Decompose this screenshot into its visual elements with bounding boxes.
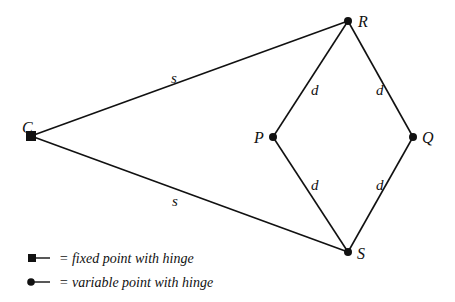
legend-variable-dot-icon [27, 278, 35, 286]
link-r-p [273, 21, 348, 137]
legend-fixed-square-icon [28, 254, 36, 262]
label-p: P [253, 129, 264, 146]
point-p [269, 133, 277, 141]
link-p-s [273, 137, 348, 252]
legend-variable-text: = variable point with hinge [59, 275, 213, 290]
peaucellier-linkage-diagram: C R P Q S s s d d d d = fixed point with… [0, 0, 455, 302]
link-label-d-ps: d [311, 177, 319, 193]
link-q-s [348, 137, 413, 252]
point-r [344, 17, 352, 25]
link-r-q [348, 21, 413, 137]
link-label-d-rq: d [376, 82, 384, 98]
link-label-d-qs: d [376, 177, 384, 193]
point-s [344, 248, 352, 256]
link-c-r [31, 21, 348, 136]
point-q [409, 133, 417, 141]
label-q: Q [422, 129, 434, 146]
legend: = fixed point with hinge = variable poin… [27, 251, 213, 290]
link-label-s-lower: s [172, 193, 178, 209]
legend-fixed-text: = fixed point with hinge [59, 251, 194, 266]
label-r: R [357, 13, 368, 30]
link-label-d-rp: d [311, 82, 319, 98]
link-c-s [31, 136, 348, 252]
label-c: C [22, 119, 33, 136]
link-label-s-upper: s [171, 70, 177, 86]
label-s: S [357, 245, 365, 262]
